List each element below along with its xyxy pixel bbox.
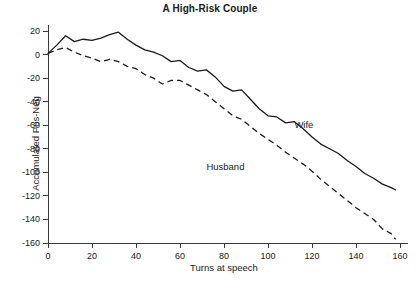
x-tick-label: 40 <box>131 251 141 261</box>
x-axis-title: Turns at speech <box>48 262 400 273</box>
y-axis-title: Accumulated Pos-Neg <box>30 64 41 224</box>
y-tick-label: 20 <box>30 26 40 36</box>
data-series-group <box>48 32 396 239</box>
y-axis-ticks <box>43 31 48 243</box>
x-tick-label: 160 <box>392 251 407 261</box>
x-tick-label: 120 <box>304 251 319 261</box>
x-tick-label: 20 <box>87 251 97 261</box>
x-axis-ticks <box>48 243 400 248</box>
x-tick-label: 140 <box>348 251 363 261</box>
x-tick-label: 0 <box>45 251 50 261</box>
plot-area <box>0 0 420 285</box>
x-tick-label: 80 <box>219 251 229 261</box>
x-tick-label: 60 <box>175 251 185 261</box>
series-line-husband <box>48 47 396 239</box>
chart-figure: A High-Risk Couple 200-20-40-60-80-100-1… <box>0 0 420 285</box>
y-tick-label: 0 <box>35 50 40 60</box>
y-tick-label: -160 <box>22 238 40 248</box>
axes <box>43 25 408 248</box>
series-annotation-husband: Husband <box>206 161 244 172</box>
x-tick-label: 100 <box>260 251 275 261</box>
series-annotation-wife: Wife <box>294 119 313 130</box>
